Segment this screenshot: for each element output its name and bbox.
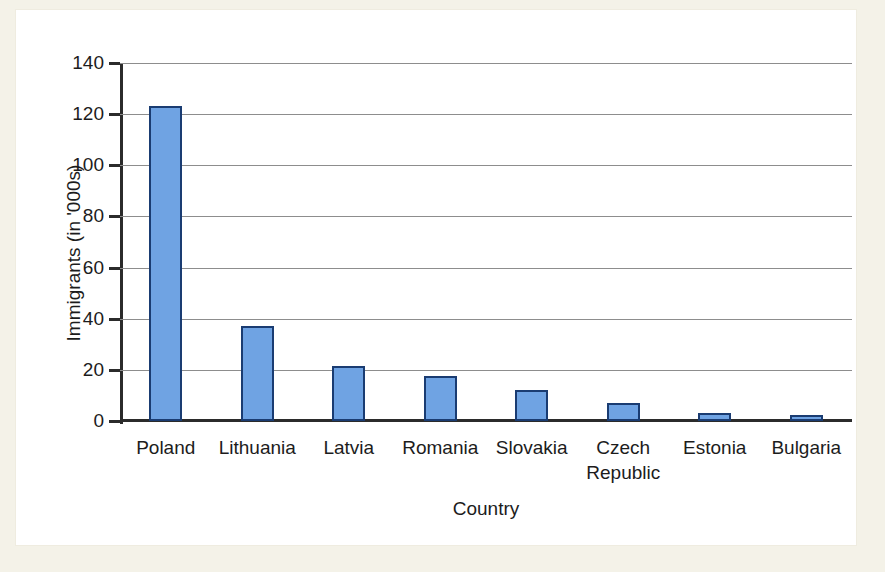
x-axis-title: Country xyxy=(120,498,852,520)
gridline xyxy=(120,165,852,166)
y-axis-tick xyxy=(109,62,120,65)
y-axis-tick-label: 0 xyxy=(44,410,104,432)
bar xyxy=(241,326,274,421)
bar xyxy=(424,376,457,421)
gridline xyxy=(120,268,852,269)
gridline xyxy=(120,319,852,320)
y-axis-tick-labels: 020406080100120140 xyxy=(16,10,104,545)
y-axis-title: Immigrants (in '000s) xyxy=(63,123,85,383)
gridline xyxy=(120,114,852,115)
page-background: 020406080100120140 Immigrants (in '000s)… xyxy=(0,0,885,572)
plot-area xyxy=(120,63,852,421)
y-axis-tick-label: 120 xyxy=(44,103,104,125)
x-axis-tick-label: Bulgaria xyxy=(753,435,861,460)
chart-card: 020406080100120140 Immigrants (in '000s)… xyxy=(16,10,856,545)
bar-chart: 020406080100120140 Immigrants (in '000s)… xyxy=(16,10,856,545)
x-axis-baseline xyxy=(120,419,852,422)
bar xyxy=(790,415,823,421)
bar xyxy=(698,413,731,421)
bar xyxy=(332,366,365,421)
gridline xyxy=(120,216,852,217)
bar xyxy=(149,106,182,421)
y-axis-tick xyxy=(109,113,120,116)
y-axis-tick xyxy=(109,267,120,270)
y-axis-tick xyxy=(109,215,120,218)
y-axis-tick xyxy=(109,369,120,372)
gridline xyxy=(120,63,852,64)
bar xyxy=(515,390,548,421)
gridline xyxy=(120,370,852,371)
bar xyxy=(607,403,640,421)
y-axis-tick xyxy=(109,318,120,321)
y-axis-tick xyxy=(109,164,120,167)
y-axis-tick-label: 140 xyxy=(44,52,104,74)
y-axis-tick xyxy=(109,420,120,423)
